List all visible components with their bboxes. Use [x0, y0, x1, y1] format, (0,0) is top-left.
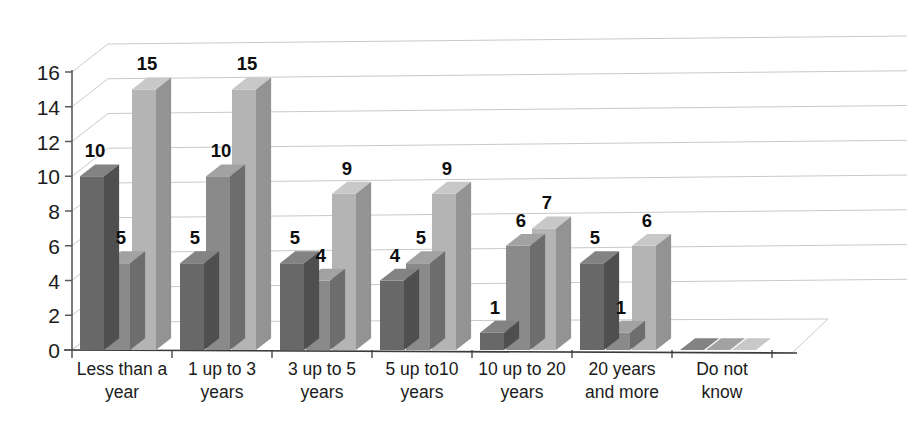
bar-value-label-g5-s2: 1 — [606, 299, 636, 318]
bar-chart: 0246810121416 Less than ayear1 up to 3ye… — [0, 0, 907, 432]
bar-value-label-g1-s3: 15 — [232, 55, 262, 74]
bar-value-label-g1-s2: 10 — [206, 142, 236, 161]
bar-value-label-g3-s3: 9 — [432, 160, 462, 179]
bar-value-label-g2-s1: 5 — [280, 229, 310, 248]
bar-value-label-g4-s1: 1 — [480, 299, 510, 318]
bar-value-label-g1-s1: 5 — [180, 229, 210, 248]
bar-value-label-g2-s2: 4 — [306, 247, 336, 266]
bar-value-label-g5-s3: 6 — [632, 212, 662, 231]
bar-value-label-g0-s1: 10 — [80, 142, 110, 161]
bar-value-label-g2-s3: 9 — [332, 160, 362, 179]
bar-value-label-g3-s1: 4 — [380, 247, 410, 266]
bar-value-label-g0-s2: 5 — [106, 229, 136, 248]
bar-value-labels: 6157619549451510515510 — [0, 0, 907, 432]
bar-value-label-g4-s2: 6 — [506, 212, 536, 231]
bar-value-label-g5-s1: 5 — [580, 229, 610, 248]
bar-value-label-g0-s3: 15 — [132, 55, 162, 74]
bar-value-label-g3-s2: 5 — [406, 229, 436, 248]
bar-value-label-g4-s3: 7 — [532, 194, 562, 213]
